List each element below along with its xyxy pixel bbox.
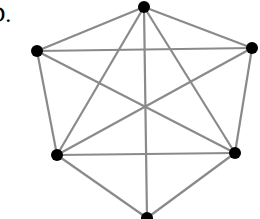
vertex-lower-right bbox=[229, 147, 241, 159]
edge-lower-right-bottom bbox=[147, 153, 235, 218]
vertex-lower-left bbox=[51, 149, 63, 161]
vertex-bottom bbox=[141, 212, 153, 219]
graph-edges bbox=[37, 7, 252, 218]
vertex-top bbox=[138, 1, 150, 13]
edge-upper-left-upper-right bbox=[37, 48, 252, 51]
vertex-upper-left bbox=[31, 45, 43, 57]
edge-upper-right-lower-left bbox=[57, 48, 252, 155]
edge-lower-left-lower-right bbox=[57, 153, 235, 155]
edge-top-upper-right bbox=[144, 7, 252, 48]
edge-upper-left-lower-left bbox=[37, 51, 57, 155]
graph-diagram bbox=[0, 0, 260, 219]
edge-upper-right-lower-right bbox=[235, 48, 252, 153]
edge-top-lower-right bbox=[144, 7, 235, 153]
edge-lower-left-bottom bbox=[57, 155, 147, 218]
edge-top-upper-left bbox=[37, 7, 144, 51]
edge-top-bottom bbox=[144, 7, 147, 218]
vertex-upper-right bbox=[246, 42, 258, 54]
edge-top-lower-left bbox=[57, 7, 144, 155]
